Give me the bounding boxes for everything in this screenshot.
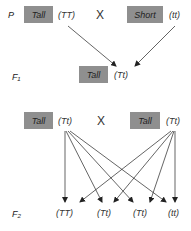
phenotype-text: Tall: [138, 116, 153, 126]
arrow: [68, 26, 116, 66]
f2-genotype-3: (Tt): [133, 208, 147, 218]
generation-label-p: P: [8, 10, 14, 20]
genotype-text: (TT): [58, 10, 75, 20]
cross-symbol: X: [96, 8, 104, 22]
genotype-text: (Tt): [114, 70, 128, 80]
cross-symbol: X: [97, 114, 105, 128]
generation-label-f1: F₁: [12, 72, 20, 82]
f2-genotype-4: (tt): [168, 208, 179, 218]
f2-genotype-1: (TT): [56, 208, 73, 218]
arrows-right-parent: [80, 131, 175, 202]
genotype-text: (Tt): [166, 116, 180, 126]
genotype-text: (tt): [169, 10, 180, 20]
phenotype-text: Tall: [87, 70, 102, 80]
monohybrid-cross-diagram: P Tall (TT) X Short (tt) F₁ Tall (Tt) Ta…: [0, 0, 191, 231]
generation-label-f2: F₂: [12, 209, 21, 219]
arrow: [135, 26, 175, 66]
phenotype-text: Tall: [32, 116, 47, 126]
phenotype-text: Tall: [32, 10, 47, 20]
phenotype-text: Short: [134, 10, 156, 20]
f2-genotype-2: (Tt): [97, 208, 111, 218]
genotype-text: (Tt): [58, 116, 72, 126]
arrows-left-parent: [65, 131, 166, 202]
